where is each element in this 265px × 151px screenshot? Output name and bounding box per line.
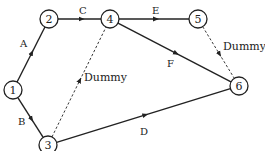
node-label: 5 (195, 13, 202, 26)
edge-1-2 (17, 27, 45, 82)
dummy-activity-label: Dummy (223, 40, 265, 53)
dummy-activity-label: Dummy (84, 71, 128, 84)
activity-label-A: A (19, 38, 28, 49)
node-label: 1 (10, 84, 17, 97)
node-label: 4 (107, 13, 114, 26)
edge-4-6 (118, 23, 231, 82)
activity-label-C: C (79, 5, 87, 16)
network-diagram: 123456 ABCEFDDummyDummy (0, 0, 265, 151)
activity-label-D: D (140, 126, 148, 137)
node-label: 2 (46, 13, 53, 26)
node-label: 3 (45, 139, 52, 151)
node-label: 6 (236, 80, 243, 93)
activity-label-F: F (167, 58, 174, 69)
activity-label-E: E (152, 5, 159, 16)
activity-label-B: B (18, 116, 25, 127)
